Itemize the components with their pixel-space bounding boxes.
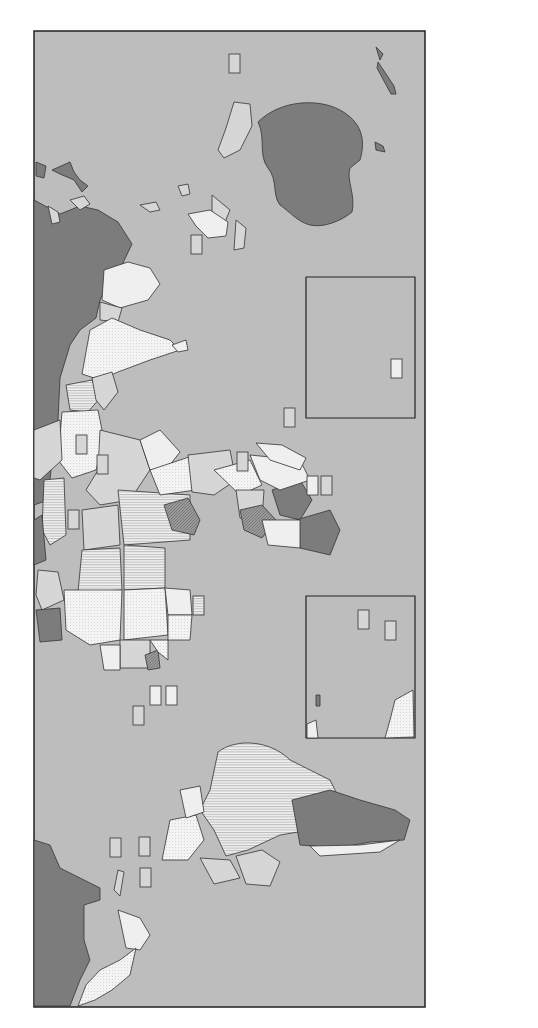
callout-box (191, 235, 202, 254)
callout-box (229, 54, 240, 73)
callout-box (97, 455, 108, 474)
callout-box (193, 596, 204, 615)
callout-box (140, 868, 151, 887)
region-libya (78, 548, 122, 592)
callout-box (321, 476, 332, 495)
inset-pacific-islands (306, 277, 415, 418)
callout-box (76, 435, 87, 454)
callout-box (133, 706, 144, 725)
callout-box (307, 476, 318, 495)
callout-box (391, 359, 402, 378)
region-egypt (82, 505, 120, 550)
callout-box (166, 686, 177, 705)
callout-box (284, 408, 295, 427)
callout-box (139, 837, 150, 856)
callout-box (385, 621, 396, 640)
callout-box (358, 610, 369, 629)
legend: Hectares of cropland per capita Less tha… (430, 0, 538, 1028)
callout-box (68, 510, 79, 529)
callout-box (150, 686, 161, 705)
callout-box (110, 838, 121, 857)
callout-box (237, 452, 248, 471)
